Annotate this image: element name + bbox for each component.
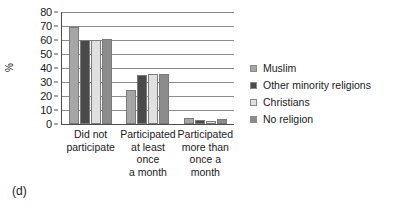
y-tick-label: 40 (40, 63, 52, 74)
x-category-label: Did not participate (62, 128, 119, 153)
y-tick-label: 0 (46, 119, 52, 130)
y-tick-label: 70 (40, 21, 52, 32)
bar (159, 74, 169, 124)
x-category-label: Participated more than once a month (177, 128, 234, 178)
legend-item: Other minority religions (250, 77, 392, 94)
y-tick-label: 20 (40, 91, 52, 102)
y-tick-mark (54, 82, 58, 83)
legend-label: Christians (263, 97, 310, 108)
legend-item: No religion (250, 111, 392, 128)
y-tick-label: 80 (40, 7, 52, 18)
y-tick-mark (54, 110, 58, 111)
y-tick-label: 30 (40, 77, 52, 88)
bar (137, 75, 147, 124)
x-category-label: Participated at least once a month (119, 128, 176, 178)
legend-label: Muslim (263, 63, 296, 74)
bar-group (177, 12, 234, 124)
y-tick-mark (54, 68, 58, 69)
bar-chart-figure: 01020304050607080 % Did not participateP… (0, 0, 395, 216)
y-tick-mark (54, 124, 58, 125)
bar (102, 39, 112, 124)
legend-label: Other minority religions (263, 80, 371, 91)
bar (80, 40, 90, 124)
y-tick-label: 60 (40, 35, 52, 46)
legend-label: No religion (263, 114, 313, 125)
legend-item: Christians (250, 94, 392, 111)
y-tick-mark (54, 12, 58, 13)
legend-swatch-icon (250, 65, 257, 72)
plot-area (62, 12, 234, 124)
bar (206, 121, 216, 125)
y-tick-mark (54, 26, 58, 27)
legend-swatch-icon (250, 99, 257, 106)
y-tick-mark (54, 54, 58, 55)
y-tick-label: 10 (40, 105, 52, 116)
y-axis-title: % (4, 63, 15, 72)
bar (148, 74, 158, 124)
bar (217, 119, 227, 124)
legend-swatch-icon (250, 82, 257, 89)
figure-caption: (d) (12, 184, 27, 198)
legend: MuslimOther minority religionsChristians… (250, 60, 392, 128)
x-axis-labels: Did not participateParticipated at least… (62, 128, 234, 188)
y-tick-mark (54, 96, 58, 97)
bar-group (119, 12, 176, 124)
bar (195, 120, 205, 124)
legend-item: Muslim (250, 60, 392, 77)
y-tick-label: 50 (40, 49, 52, 60)
bars-layer (62, 12, 234, 124)
bar (184, 118, 194, 124)
bar (69, 27, 79, 124)
legend-swatch-icon (250, 116, 257, 123)
bar (126, 90, 136, 124)
y-axis: 01020304050607080 (28, 12, 58, 124)
y-tick-mark (54, 40, 58, 41)
bar-group (62, 12, 119, 124)
x-axis-line (62, 124, 234, 125)
bar (91, 40, 101, 124)
